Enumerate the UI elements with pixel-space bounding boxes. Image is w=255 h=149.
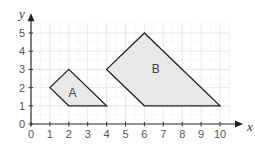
x-tick-label: 8 [179,128,185,140]
x-tick-label: 0 [28,128,34,140]
y-tick-label: 5 [19,27,25,39]
x-tick-label: 4 [104,128,110,140]
x-tick-label: 7 [160,128,166,140]
y-tick-label: 2 [19,82,25,94]
x-tick-label: 2 [66,128,72,140]
shape-label-b: B [152,62,160,76]
y-axis-arrow-icon [28,13,35,21]
shape-label-a: A [69,86,77,100]
y-axis-label: y [17,6,25,21]
x-tick-label: 1 [47,128,53,140]
y-tick-label: 1 [19,100,25,112]
y-tick-label: 4 [19,45,25,57]
x-tick-label: 6 [141,128,147,140]
x-axis-arrow-icon [235,121,243,128]
y-tick-label: 0 [19,118,25,130]
x-axis-label: x [246,119,253,134]
y-tick-label: 3 [19,63,25,75]
x-tick-label: 3 [85,128,91,140]
x-tick-label: 9 [198,128,204,140]
x-tick-label: 10 [214,128,226,140]
x-tick-label: 5 [122,128,128,140]
coordinate-diagram: AB 012345678910012345 x y [0,0,255,149]
